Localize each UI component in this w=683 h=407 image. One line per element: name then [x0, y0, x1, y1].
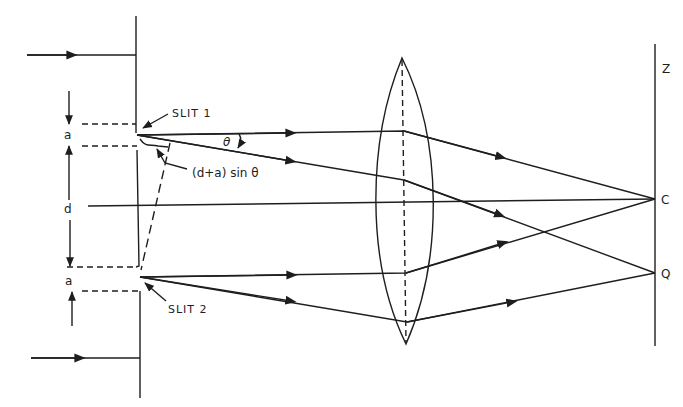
- slit-width-label-bottom: a: [65, 274, 72, 288]
- screen-label-c: C: [661, 193, 669, 207]
- screen-label-q: Q: [661, 267, 670, 281]
- screen-label-z: Z: [662, 62, 670, 76]
- ray-slit2-parallel: [140, 199, 655, 277]
- theta-arc: [238, 134, 241, 148]
- path-difference-construction: [141, 143, 170, 270]
- optical-axis: [88, 199, 655, 206]
- slit-edge-dashes: [67, 124, 140, 291]
- slit-width-label-top: a: [64, 128, 71, 142]
- slit1-label: SLIT 1: [172, 107, 212, 120]
- slit1-pointer: [143, 114, 168, 128]
- slit2-label: SLIT 2: [168, 303, 208, 316]
- lens-axis: [402, 60, 406, 342]
- slit-separation-label: d: [64, 202, 72, 216]
- double-slit-diagram: SLIT 1 SLIT 2 a d a θ (d+a) sin θ Z C Q: [0, 0, 683, 407]
- slit2-pointer: [145, 283, 166, 301]
- path-difference-label: (d+a) sin θ: [192, 166, 259, 180]
- barrier-middle: [136, 150, 139, 267]
- ray-slit1-parallel: [137, 131, 655, 199]
- ray-slit2-angled: [140, 273, 655, 322]
- angle-label: θ: [223, 135, 231, 149]
